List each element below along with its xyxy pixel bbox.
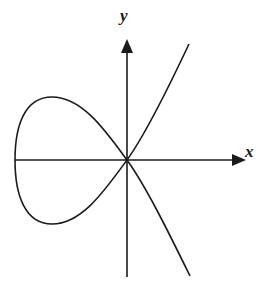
curve-branch-lower [127, 160, 190, 276]
x-axis-label: x [245, 142, 254, 162]
y-axis-arrow-icon [121, 39, 133, 53]
x-axis-arrow-icon [232, 154, 246, 166]
curve-diagram [0, 0, 267, 294]
y-axis-label: y [120, 6, 128, 26]
curve-branch-upper [127, 44, 189, 160]
